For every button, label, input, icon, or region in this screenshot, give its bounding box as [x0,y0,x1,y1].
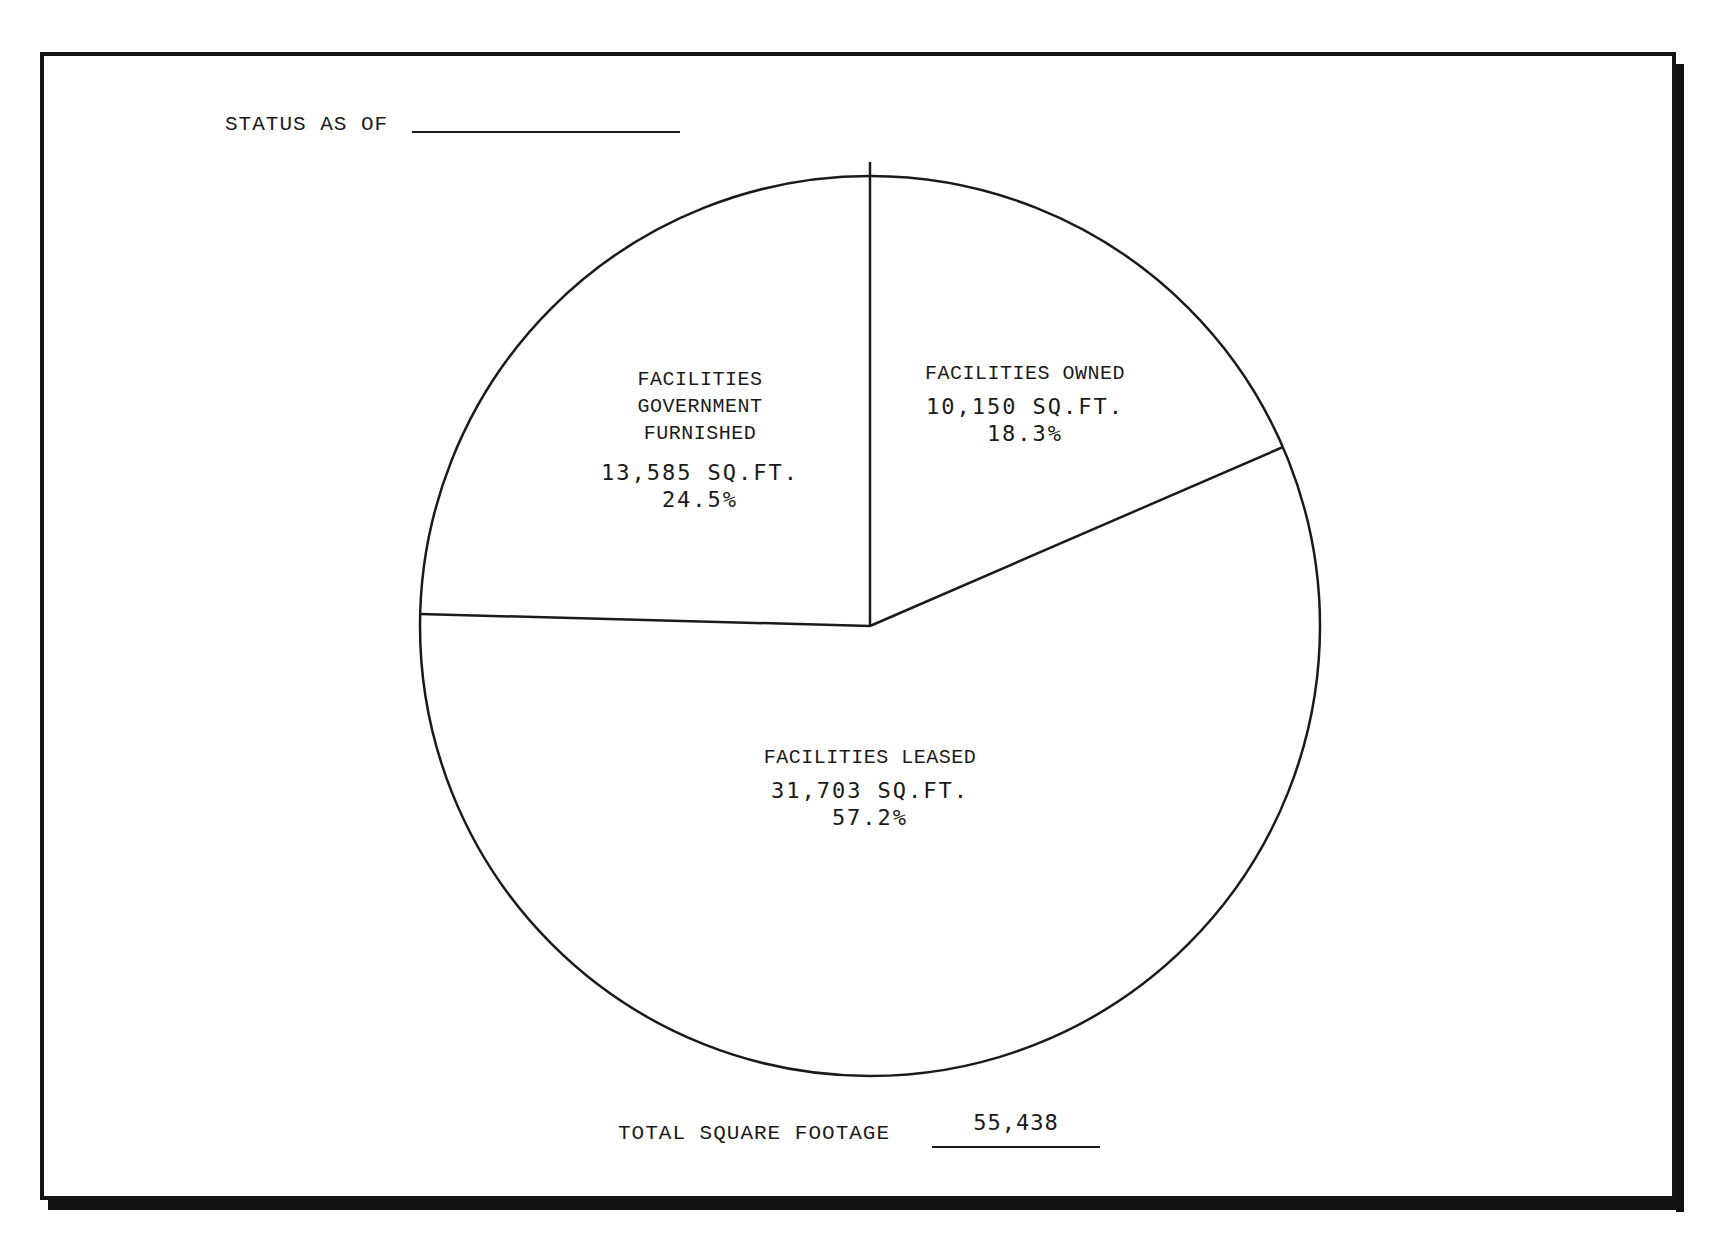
slice-percent: 24.5% [580,486,820,513]
slice-sqft: 10,150 SQ.FT. [880,393,1170,420]
slice-percent: 18.3% [880,420,1170,447]
pie-chart [0,0,1726,1243]
slice-title-line: FACILITIES OWNED [880,360,1170,387]
slice-title-line: FACILITIES [580,366,820,393]
slice-title-line: FURNISHED [580,420,820,447]
total-square-footage-label: TOTAL SQUARE FOOTAGE [618,1122,890,1145]
slice-sqft: 13,585 SQ.FT. [580,459,820,486]
slice-percent: 57.2% [710,804,1030,831]
slice-label-leased: FACILITIES LEASED 31,703 SQ.FT. 57.2% [710,744,1030,831]
slice-title-line: FACILITIES LEASED [710,744,1030,771]
slice-title-line: GOVERNMENT [580,393,820,420]
slice-label-owned: FACILITIES OWNED 10,150 SQ.FT. 18.3% [880,360,1170,447]
total-square-footage-value: 55,438 [932,1110,1100,1135]
slice-sqft: 31,703 SQ.FT. [710,777,1030,804]
total-underline [932,1146,1100,1148]
slice-label-government-furnished: FACILITIES GOVERNMENT FURNISHED 13,585 S… [580,366,820,513]
